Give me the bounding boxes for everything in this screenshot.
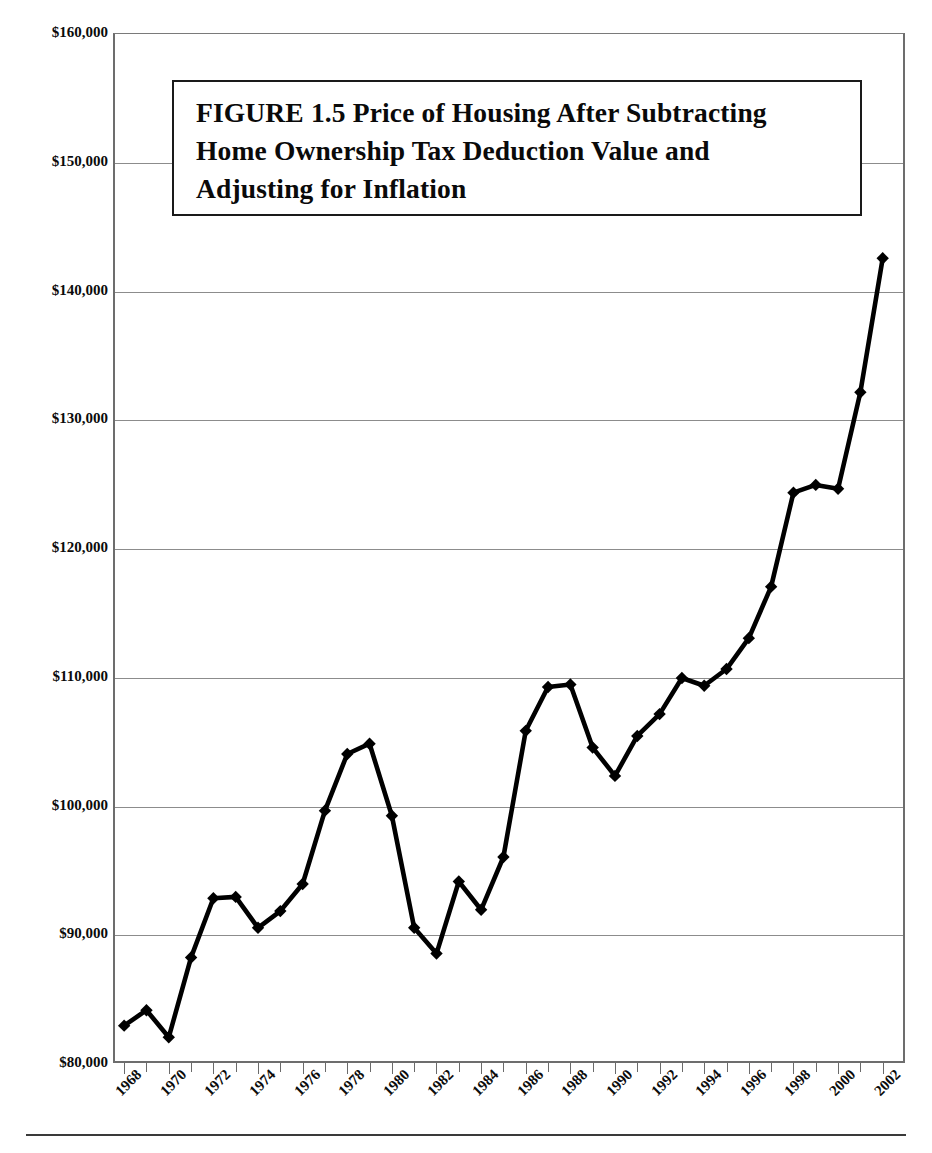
y-tick-label-90000: $90,000 [12,926,108,941]
data-point-1999 [810,479,822,491]
x-tick-label-1990: 1990 [603,1066,636,1099]
data-point-1998 [787,486,799,498]
y-tick-label-100000: $100,000 [12,798,108,813]
x-tick-label-1974: 1974 [246,1066,279,1099]
data-point-1972 [207,892,219,904]
x-tick-label-2000: 2000 [826,1066,859,1099]
y-axis-tick-labels: $160,000$150,000$140,000$130,000$120,000… [0,0,108,1153]
x-tick-label-2002: 2002 [871,1066,904,1099]
x-tick-label-1972: 1972 [201,1066,234,1099]
x-tick-label-1992: 1992 [648,1066,681,1099]
x-tick-label-1984: 1984 [469,1066,502,1099]
y-tick-label-110000: $110,000 [12,669,108,684]
data-point-1988 [564,678,576,690]
data-point-2001 [854,386,866,398]
data-point-2000 [832,483,844,495]
x-tick-label-1996: 1996 [737,1066,770,1099]
x-tick-label-1982: 1982 [424,1066,457,1099]
figure-title-box: FIGURE 1.5 Price of Housing After Subtra… [172,80,862,216]
data-point-2002 [876,252,888,264]
x-tick-label-1978: 1978 [335,1066,368,1099]
bottom-divider [26,1134,906,1136]
x-tick-label-1994: 1994 [692,1066,725,1099]
figure-title-line-2: Home Ownership Tax Deduction Value and [196,132,860,170]
y-tick-label-120000: $120,000 [12,540,108,555]
y-tick-label-130000: $130,000 [12,411,108,426]
x-tick-label-1998: 1998 [781,1066,814,1099]
data-point-1980 [386,810,398,822]
x-tick-label-1986: 1986 [514,1066,547,1099]
x-tick-label-1968: 1968 [112,1066,145,1099]
figure-title-line-3: Adjusting for Inflation [196,170,860,208]
y-tick-label-150000: $150,000 [12,154,108,169]
x-tick-label-1970: 1970 [157,1066,190,1099]
figure-root: Housing Price Less Value of Tax Deductio… [0,0,932,1153]
y-tick-label-140000: $140,000 [12,283,108,298]
x-axis-tick-labels: 1968197019721974197619781980198219841986… [0,1063,932,1153]
x-tick-label-1988: 1988 [558,1066,591,1099]
y-tick-label-160000: $160,000 [12,25,108,40]
data-point-1977 [319,804,331,816]
data-point-1971 [185,951,197,963]
figure-title-line-1: FIGURE 1.5 Price of Housing After Subtra… [196,94,860,132]
series-polyline [124,258,883,1037]
data-point-1985 [497,851,509,863]
x-tick-label-1976: 1976 [291,1066,324,1099]
x-tick-label-1980: 1980 [380,1066,413,1099]
